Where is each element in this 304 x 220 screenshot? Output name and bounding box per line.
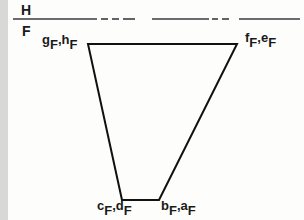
- plane-label-f: F: [22, 24, 31, 38]
- vertex-label-bottom-left: cF,dF: [97, 199, 132, 217]
- trapezoid-projection: [88, 44, 237, 200]
- plane-label-h: H: [21, 3, 31, 17]
- vertex-label-bottom-right: bF,aF: [161, 199, 196, 217]
- vertex-label-top-left: gF,hF: [42, 33, 77, 51]
- vertex-label-top-right: fF,eF: [245, 31, 276, 49]
